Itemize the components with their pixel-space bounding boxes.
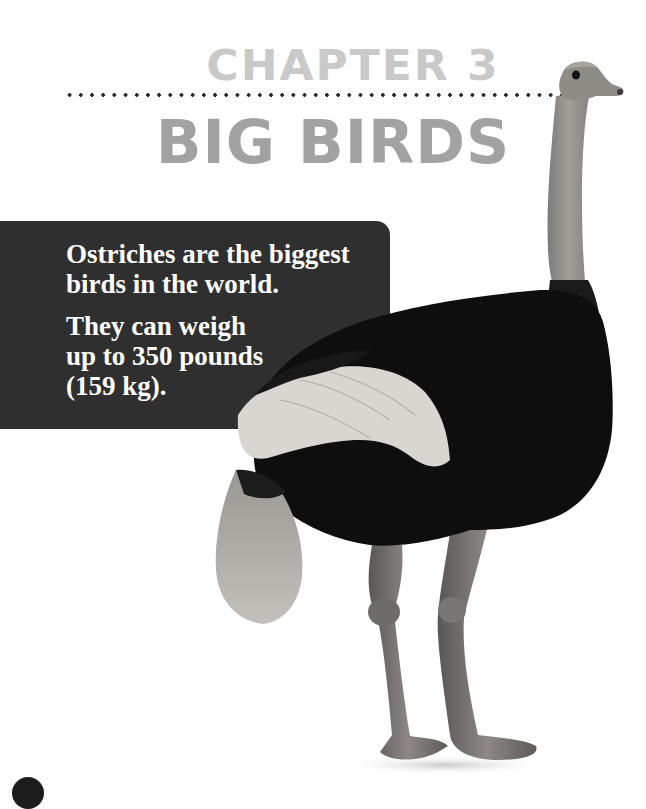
fact-paragraph-1: Ostriches are the biggest birds in the w… xyxy=(66,239,366,299)
fact-line: up to 350 pounds xyxy=(66,341,366,371)
chapter-label: CHAPTER 3 xyxy=(0,45,646,87)
chapter-title: BIG BIRDS xyxy=(0,112,646,172)
page-number-badge xyxy=(12,777,44,809)
fact-line: Ostriches are the biggest xyxy=(66,239,366,269)
fact-line: (159 kg). xyxy=(66,371,366,401)
fact-paragraph-2: They can weigh up to 350 pounds (159 kg)… xyxy=(66,311,366,401)
fact-box: Ostriches are the biggest birds in the w… xyxy=(0,221,390,429)
fact-line: birds in the world. xyxy=(66,269,366,299)
fact-line: They can weigh xyxy=(66,311,366,341)
dotted-divider xyxy=(64,92,564,98)
